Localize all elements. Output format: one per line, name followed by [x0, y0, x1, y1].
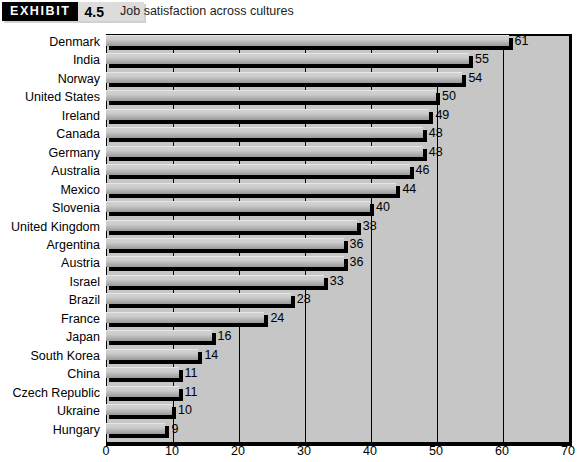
category-label: United States: [25, 90, 100, 104]
bar-fill: [106, 201, 370, 212]
bar[interactable]: [106, 53, 469, 67]
bar-value-label: 55: [475, 53, 489, 66]
bar-row[interactable]: United Kingdom38: [106, 220, 357, 238]
bar[interactable]: [106, 109, 429, 123]
bar-row[interactable]: India55: [106, 53, 469, 71]
bar[interactable]: [106, 312, 264, 326]
x-axis-tick: [305, 436, 306, 442]
category-label: Argentina: [46, 238, 100, 252]
bar-row[interactable]: China11: [106, 367, 179, 385]
bar[interactable]: [106, 35, 509, 49]
bar-shadow: [109, 231, 361, 235]
bar-row[interactable]: Argentina36: [106, 238, 344, 256]
bar-shadow: [109, 434, 169, 438]
bar-row[interactable]: Israel33: [106, 275, 324, 293]
bar[interactable]: [106, 404, 172, 418]
bar-row[interactable]: Slovenia40: [106, 201, 370, 219]
x-axis-tick-label: 60: [495, 444, 509, 458]
bar-shadow: [109, 360, 202, 364]
bar-fill: [106, 404, 172, 415]
bar-row[interactable]: United States50: [106, 90, 436, 108]
bar[interactable]: [106, 164, 410, 178]
bar-row[interactable]: Canada48: [106, 127, 423, 145]
bar-shadow: [109, 378, 183, 382]
bar-row[interactable]: Mexico44: [106, 183, 396, 201]
bar-row[interactable]: Austria36: [106, 256, 344, 274]
category-label: France: [61, 312, 100, 326]
bar[interactable]: [106, 90, 436, 104]
bar-fill: [106, 35, 509, 46]
bar-row[interactable]: South Korea14: [106, 349, 198, 367]
bar[interactable]: [106, 220, 357, 234]
bar[interactable]: [106, 386, 179, 400]
bar[interactable]: [106, 238, 344, 252]
bar-value-label: 44: [402, 183, 416, 196]
gridline: [503, 36, 504, 442]
bar[interactable]: [106, 127, 423, 141]
category-label: Hungary: [53, 423, 100, 437]
bar-row[interactable]: France24: [106, 312, 264, 330]
bar-shadow: [109, 304, 295, 308]
category-label: Israel: [69, 275, 100, 289]
bar-fill: [106, 183, 396, 194]
bar[interactable]: [106, 275, 324, 289]
bar-row[interactable]: Norway54: [106, 72, 462, 90]
bar-value-label: 16: [218, 330, 232, 343]
bar-shadow: [109, 138, 427, 142]
bar-row[interactable]: Germany48: [106, 146, 423, 164]
bar-row[interactable]: Ireland49: [106, 109, 429, 127]
bar-shadow: [109, 397, 183, 401]
bar-value-label: 48: [429, 146, 443, 159]
bar[interactable]: [106, 349, 198, 363]
bar-fill: [106, 293, 291, 304]
category-label: Brazil: [69, 293, 100, 307]
bar[interactable]: [106, 201, 370, 215]
x-axis-tick: [503, 436, 504, 442]
bar-value-label: 33: [330, 275, 344, 288]
bar-shadow: [109, 212, 374, 216]
bar-value-label: 46: [416, 164, 430, 177]
bar-fill: [106, 164, 410, 175]
bar-value-label: 11: [185, 367, 198, 380]
category-label: United Kingdom: [11, 220, 100, 234]
bar[interactable]: [106, 330, 212, 344]
bar[interactable]: [106, 367, 179, 381]
bar-fill: [106, 90, 436, 101]
bar[interactable]: [106, 293, 291, 307]
bar-value-label: 36: [350, 238, 364, 251]
bar-row[interactable]: Australia46: [106, 164, 410, 182]
bar-shadow: [109, 46, 513, 50]
bar-row[interactable]: Denmark61: [106, 35, 509, 53]
bar-value-label: 50: [442, 90, 456, 103]
bar-row[interactable]: Japan16: [106, 330, 212, 348]
category-label: Australia: [51, 164, 100, 178]
bar-shadow: [109, 341, 216, 345]
category-label: Mexico: [60, 183, 100, 197]
bar-shadow: [109, 194, 400, 198]
bar-shadow: [109, 64, 473, 68]
bar-fill: [106, 53, 469, 64]
x-axis-tick: [371, 436, 372, 442]
bar-row[interactable]: Ukraine10: [106, 404, 172, 422]
category-label: Ukraine: [57, 404, 100, 418]
bar-fill: [106, 349, 198, 360]
bar-fill: [106, 386, 179, 397]
bar[interactable]: [106, 256, 344, 270]
bar-row[interactable]: Czech Republic11: [106, 386, 179, 404]
bar[interactable]: [106, 146, 423, 160]
bar-shadow: [109, 101, 440, 105]
bar-shadow: [109, 323, 268, 327]
bar-fill: [106, 109, 429, 120]
bar[interactable]: [106, 72, 462, 86]
bar-row[interactable]: Hungary9: [106, 423, 165, 441]
category-label: Norway: [58, 72, 100, 86]
bar-fill: [106, 127, 423, 138]
bar[interactable]: [106, 423, 165, 437]
bar-row[interactable]: Brazil28: [106, 293, 291, 311]
bar[interactable]: [106, 183, 396, 197]
category-label: Austria: [61, 256, 100, 270]
category-label: South Korea: [31, 349, 101, 363]
bar-shadow: [109, 157, 427, 161]
x-axis-tick-label: 20: [231, 444, 245, 458]
category-label: Czech Republic: [12, 386, 100, 400]
